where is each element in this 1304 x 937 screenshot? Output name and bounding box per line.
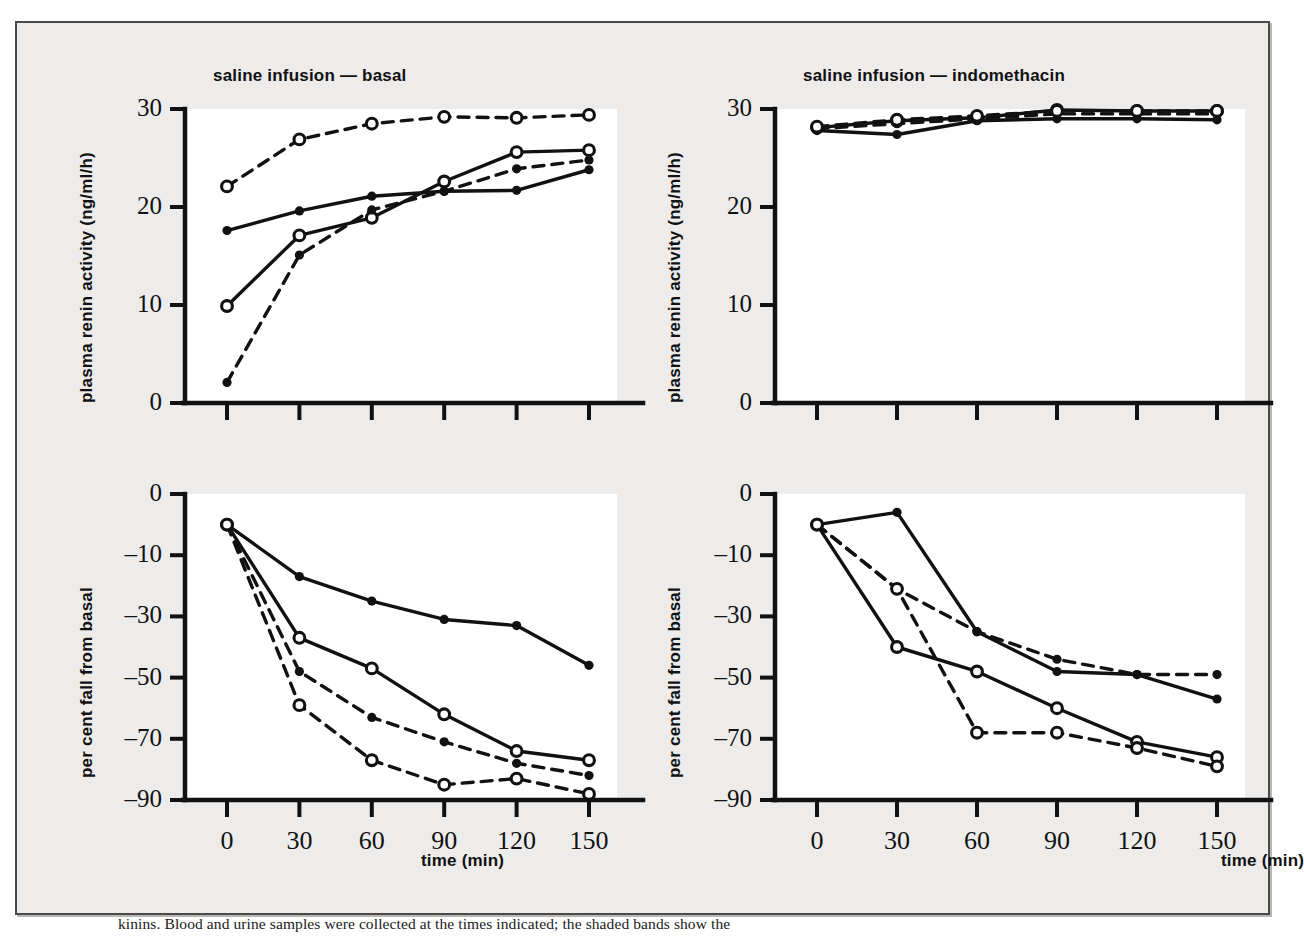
data-point-open xyxy=(222,519,233,530)
data-point-filled xyxy=(367,713,376,722)
data-point-open xyxy=(972,110,983,121)
data-point-open xyxy=(972,666,983,677)
data-point-open xyxy=(972,727,983,738)
data-point-open xyxy=(892,114,903,125)
data-point-open xyxy=(1132,106,1143,117)
y-tick-label: 0 xyxy=(150,388,163,415)
y-tick-label: –30 xyxy=(124,601,163,628)
data-point-open xyxy=(511,112,522,123)
data-point-filled xyxy=(367,192,376,201)
data-point-open xyxy=(1052,106,1063,117)
x-tick-label: 120 xyxy=(1118,826,1157,855)
data-point-filled xyxy=(295,572,304,581)
y-tick-label: 0 xyxy=(740,388,753,415)
data-point-open xyxy=(439,111,450,122)
panel-title-pra-indomethacin: saline infusion — indomethacin xyxy=(803,66,1065,86)
data-point-filled xyxy=(512,164,521,173)
data-point-filled xyxy=(440,187,449,196)
x-tick-label: 0 xyxy=(811,826,824,855)
data-point-filled xyxy=(1132,670,1141,679)
data-point-filled xyxy=(440,737,449,746)
x-tick-label: 30 xyxy=(884,826,910,855)
data-point-open xyxy=(439,709,450,720)
data-point-filled xyxy=(440,615,449,624)
panel-fall-basal: per cent fall from basal time (min) 0–10… xyxy=(17,423,645,917)
plot-fall-indomethacin: 0–10–30–50–70–900306090120150 xyxy=(645,423,1272,917)
y-tick-label: 20 xyxy=(727,192,752,219)
data-point-open xyxy=(1052,703,1063,714)
y-tick-label: –90 xyxy=(714,785,753,812)
data-point-open xyxy=(439,779,450,790)
panel-pra-basal: saline infusion — basal plasma renin act… xyxy=(17,23,645,423)
x-tick-label: 150 xyxy=(570,826,609,855)
y-tick-label: 0 xyxy=(150,479,163,506)
y-tick-label: 30 xyxy=(137,94,162,121)
x-tick-label: 90 xyxy=(1044,826,1070,855)
data-point-open xyxy=(439,176,450,187)
ylabel-fall-right: per cent fall from basal xyxy=(665,587,685,778)
y-tick-label: –70 xyxy=(124,724,163,751)
data-point-open xyxy=(222,301,233,312)
y-tick-label: 0 xyxy=(740,479,753,506)
data-point-filled xyxy=(222,226,231,235)
data-point-open xyxy=(584,788,595,799)
xlabel-time-left: time (min) xyxy=(421,851,504,871)
y-tick-label: –50 xyxy=(124,663,163,690)
y-tick-label: –50 xyxy=(714,663,753,690)
data-point-filled xyxy=(367,597,376,606)
data-point-filled xyxy=(1052,655,1061,664)
data-point-open xyxy=(812,519,823,530)
caption-text: kinins. Blood and urine samples were col… xyxy=(118,918,730,933)
data-point-filled xyxy=(892,508,901,517)
plot-background xyxy=(185,109,617,403)
data-point-filled xyxy=(584,661,593,670)
data-point-filled xyxy=(584,165,593,174)
data-point-filled xyxy=(367,205,376,214)
data-point-open xyxy=(294,632,305,643)
data-point-open xyxy=(1212,761,1223,772)
data-point-filled xyxy=(512,759,521,768)
data-point-open xyxy=(1212,106,1223,117)
plot-background xyxy=(775,109,1245,403)
y-tick-label: 10 xyxy=(137,290,162,317)
data-point-filled xyxy=(1052,667,1061,676)
data-point-filled xyxy=(512,186,521,195)
panel-fall-indomethacin: per cent fall from basal time (min) 0–10… xyxy=(645,423,1272,917)
y-tick-label: –90 xyxy=(124,785,163,812)
data-point-open xyxy=(584,755,595,766)
data-point-filled xyxy=(295,250,304,259)
data-point-open xyxy=(366,755,377,766)
data-point-filled xyxy=(972,627,981,636)
y-tick-label: 30 xyxy=(727,94,752,121)
panel-title-pra-basal: saline infusion — basal xyxy=(213,66,407,86)
data-point-filled xyxy=(584,771,593,780)
data-point-open xyxy=(584,109,595,120)
data-point-open xyxy=(366,118,377,129)
data-point-open xyxy=(294,230,305,241)
data-point-filled xyxy=(295,206,304,215)
ylabel-fall-left: per cent fall from basal xyxy=(77,587,97,778)
y-tick-label: 20 xyxy=(137,192,162,219)
data-point-open xyxy=(892,642,903,653)
data-point-filled xyxy=(1212,670,1221,679)
data-point-open xyxy=(294,700,305,711)
data-point-filled xyxy=(295,667,304,676)
y-tick-label: –70 xyxy=(714,724,753,751)
data-point-open xyxy=(892,583,903,594)
data-point-open xyxy=(294,134,305,145)
y-tick-label: –10 xyxy=(124,540,163,567)
xlabel-time-right: time (min) xyxy=(1221,851,1304,871)
x-tick-label: 30 xyxy=(286,826,312,855)
ylabel-pra-right: plasma renin activity (ng/ml/h) xyxy=(665,152,685,403)
data-point-open xyxy=(584,145,595,156)
data-point-filled xyxy=(222,378,231,387)
data-point-filled xyxy=(512,621,521,630)
data-point-filled xyxy=(584,155,593,164)
data-point-filled xyxy=(1212,694,1221,703)
y-tick-label: –10 xyxy=(714,540,753,567)
x-tick-label: 0 xyxy=(221,826,234,855)
data-point-open xyxy=(812,121,823,132)
data-point-open xyxy=(1052,727,1063,738)
data-point-filled xyxy=(892,130,901,139)
